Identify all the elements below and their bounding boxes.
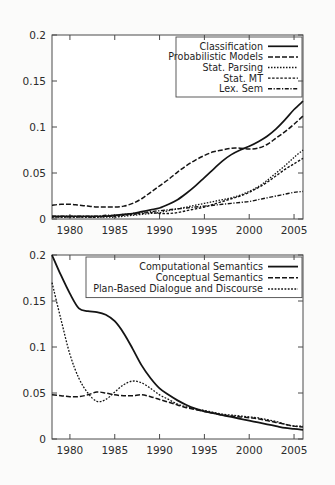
y-tick-label: 0.2 xyxy=(29,249,46,261)
legend-label: Lex. Sem xyxy=(219,83,263,94)
x-tick-label: 2005 xyxy=(281,444,308,456)
y-tick-label: 0.1 xyxy=(29,121,46,133)
y-tick-label: 0 xyxy=(39,213,46,225)
x-tick-label: 1985 xyxy=(101,444,128,456)
legend-label: Conceptual Semantics xyxy=(156,272,263,283)
y-tick-label: 0 xyxy=(39,433,46,445)
y-tick-label: 0.05 xyxy=(23,167,46,179)
legend-label: Probabilistic Models xyxy=(168,51,263,62)
x-tick-label: 1995 xyxy=(191,224,218,236)
legend-label: Stat. MT xyxy=(223,73,263,84)
x-tick-label: 1985 xyxy=(101,224,128,236)
y-tick-label: 0.15 xyxy=(23,295,46,307)
x-tick-label: 1990 xyxy=(146,224,173,236)
figure-page: 00.050.10.150.2198019851990199520002005C… xyxy=(0,0,335,485)
x-tick-label: 1980 xyxy=(57,224,84,236)
x-tick-label: 2000 xyxy=(236,444,263,456)
y-tick-label: 0.05 xyxy=(23,387,46,399)
x-tick-label: 2000 xyxy=(236,224,263,236)
x-tick-label: 1990 xyxy=(146,444,173,456)
x-tick-label: 1980 xyxy=(57,444,84,456)
chart-bottom-panel: 00.050.10.150.2198019851990199520002005C… xyxy=(0,243,335,485)
legend-label: Classification xyxy=(200,41,263,52)
chart-svg-bottom: 00.050.10.150.2198019851990199520002005C… xyxy=(0,243,335,485)
y-tick-label: 0.2 xyxy=(29,29,46,41)
y-tick-label: 0.15 xyxy=(23,75,46,87)
plot-frame xyxy=(52,35,303,219)
x-tick-label: 1995 xyxy=(191,444,218,456)
chart-svg-top: 00.050.10.150.2198019851990199520002005C… xyxy=(0,0,335,243)
legend-label: Plan-Based Dialogue and Discourse xyxy=(93,283,263,294)
legend-label: Stat. Parsing xyxy=(202,62,263,73)
y-tick-label: 0.1 xyxy=(29,341,46,353)
x-tick-label: 2005 xyxy=(281,224,308,236)
chart-top-panel: 00.050.10.150.2198019851990199520002005C… xyxy=(0,0,335,243)
legend-label: Computational Semantics xyxy=(139,261,263,272)
